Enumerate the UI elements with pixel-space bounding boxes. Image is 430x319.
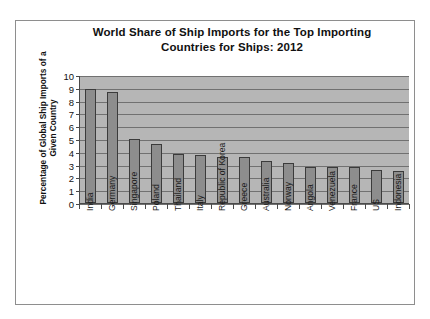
bar bbox=[85, 89, 96, 203]
x-axis-tick-mark bbox=[387, 204, 388, 209]
y-axis-tick-label: 9 bbox=[69, 83, 74, 94]
y-axis-title-line-2: Given Country bbox=[48, 43, 58, 213]
y-axis-tick-label: 10 bbox=[63, 71, 74, 82]
x-axis-label: Italy bbox=[196, 195, 205, 211]
x-axis-label: Republic of Korea bbox=[218, 143, 227, 211]
x-axis-label: Indonesia bbox=[394, 174, 403, 211]
x-axis-tick-mark bbox=[233, 204, 234, 209]
chart-frame: World Share of Ship Imports for the Top … bbox=[15, 20, 415, 305]
x-axis-label: Norway bbox=[284, 182, 293, 211]
y-axis-tick-label: 7 bbox=[69, 109, 74, 120]
bar bbox=[371, 170, 382, 203]
x-axis-label: Australia bbox=[262, 178, 271, 211]
y-axis-tick-label: 3 bbox=[69, 160, 74, 171]
x-axis-tick-mark bbox=[145, 204, 146, 209]
y-axis-tick-label: 0 bbox=[69, 199, 74, 210]
x-axis-tick-mark bbox=[79, 204, 80, 209]
chart-title-line-1: World Share of Ship Imports for the Top … bbox=[62, 25, 402, 40]
bar-slot bbox=[190, 76, 212, 203]
chart-title-line-2: Countries for Ships: 2012 bbox=[62, 40, 402, 55]
y-axis-title: Percentage of Global Ship Imports of a G… bbox=[38, 43, 58, 213]
y-axis-tick-label: 8 bbox=[69, 96, 74, 107]
y-axis-tick-label: 4 bbox=[69, 147, 74, 158]
x-axis-tick-mark bbox=[277, 204, 278, 209]
x-axis-label: Venezuela bbox=[328, 171, 337, 211]
x-axis-label: Germany bbox=[108, 176, 117, 211]
x-axis-tick-mark bbox=[189, 204, 190, 209]
x-axis-label: US bbox=[372, 199, 381, 211]
x-axis-tick-mark bbox=[123, 204, 124, 209]
x-axis-tick-mark bbox=[211, 204, 212, 209]
x-axis-tick-mark bbox=[321, 204, 322, 209]
x-axis-label: India bbox=[86, 192, 95, 211]
chart-title: World Share of Ship Imports for the Top … bbox=[62, 25, 402, 55]
x-axis-tick-mark bbox=[299, 204, 300, 209]
x-axis-tick-mark bbox=[343, 204, 344, 209]
x-axis-tick-mark bbox=[409, 204, 410, 209]
x-axis-label: Poland bbox=[152, 184, 161, 211]
x-axis-tick-mark bbox=[101, 204, 102, 209]
x-axis-label: France bbox=[350, 184, 359, 211]
y-axis-tick-label: 6 bbox=[69, 122, 74, 133]
x-axis-label: Singapore bbox=[130, 172, 139, 211]
x-axis-label: Angola bbox=[306, 184, 315, 211]
bar-slot bbox=[80, 76, 102, 203]
y-axis-tick-label: 1 bbox=[69, 186, 74, 197]
x-axis-tick-mark bbox=[255, 204, 256, 209]
x-axis-labels: IndiaGermanySingaporePolandThailandItaly… bbox=[79, 211, 409, 306]
bar-slot bbox=[365, 76, 387, 203]
x-axis-tick-mark bbox=[365, 204, 366, 209]
y-axis-title-line-1: Percentage of Global Ship Imports of a bbox=[38, 43, 48, 213]
x-axis-tick-mark bbox=[167, 204, 168, 209]
x-axis-label: Greece bbox=[240, 183, 249, 211]
y-axis-tick-label: 2 bbox=[69, 173, 74, 184]
x-axis-label: Thailand bbox=[174, 178, 183, 211]
y-axis-tick-label: 5 bbox=[69, 135, 74, 146]
